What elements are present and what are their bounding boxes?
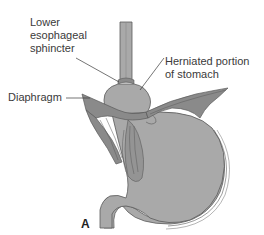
label-diaphragm: Diaphragm	[8, 91, 62, 104]
esophagus	[120, 22, 132, 82]
leader-herniated	[140, 58, 164, 90]
sphincter-band	[118, 78, 134, 84]
label-lower-esophageal-sphincter: Lower esophageal sphincter	[30, 16, 87, 55]
label-herniated-portion: Herniated portion of stomach	[165, 55, 249, 81]
leader-sphincter	[76, 58, 119, 82]
panel-label: A	[81, 217, 90, 231]
hiatal-hernia-diagram: Lower esophageal sphincter Herniated por…	[0, 0, 264, 235]
